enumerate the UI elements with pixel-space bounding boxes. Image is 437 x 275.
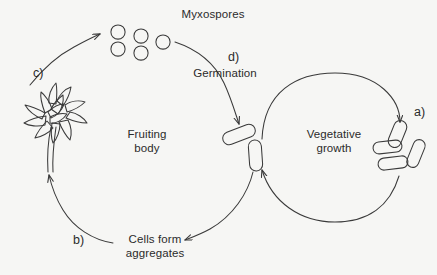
myxobacteria-life-cycle-diagram: Myxospores Germination Fruiting body Veg… — [0, 0, 437, 275]
myxospore-3 — [156, 35, 170, 49]
step-label-d: d) — [228, 50, 239, 64]
aggregation-arrow — [185, 172, 253, 240]
label-cells-form-aggregates: Cells form aggregates — [126, 233, 185, 260]
label-myxospores: Myxospores — [182, 8, 245, 22]
vegetative-rod-4 — [377, 155, 408, 171]
myxospore-4 — [111, 42, 125, 56]
center-rod-1 — [221, 122, 257, 146]
step-label-c: c) — [33, 66, 43, 80]
myxospore-5 — [134, 46, 148, 60]
myxospore-1 — [111, 25, 125, 39]
diagram-vector-layer — [0, 0, 437, 275]
step-label-a: a) — [414, 105, 425, 119]
vegetative-rod-1 — [386, 119, 409, 150]
label-germination: Germination — [193, 67, 257, 81]
vegetative-growth-arc-bottom — [262, 170, 399, 222]
fruiting-body-stalk-right — [53, 127, 56, 172]
label-fruiting-body: Fruiting body — [127, 128, 166, 155]
center-rod-2 — [248, 140, 263, 172]
label-vegetative-growth: Vegetative growth — [307, 128, 362, 155]
fruiting-body-stalk-left — [48, 127, 51, 172]
step-label-b: b) — [73, 233, 84, 247]
myxospore-2 — [134, 29, 148, 43]
vegetative-rod-3 — [405, 138, 427, 169]
